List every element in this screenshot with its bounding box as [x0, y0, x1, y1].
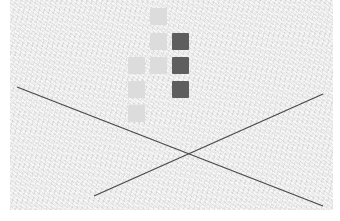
- canvas: [0, 0, 340, 221]
- crossing-lines: [0, 0, 340, 221]
- diagonal-line-2: [94, 94, 323, 196]
- diagonal-line-1: [17, 87, 323, 206]
